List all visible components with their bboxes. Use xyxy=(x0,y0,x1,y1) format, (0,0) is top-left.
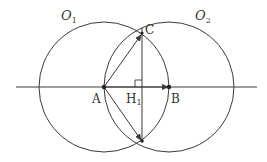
label-o1: O1 xyxy=(61,8,77,25)
point-a xyxy=(102,85,106,89)
label-b: B xyxy=(171,92,180,106)
two-intersecting-circles-diagram: O1 O2 C A H1 B xyxy=(0,0,267,162)
point-c xyxy=(140,31,143,34)
label-h1: H1 xyxy=(126,92,142,107)
right-angle-marker xyxy=(135,80,142,87)
label-a: A xyxy=(91,92,101,106)
point-b xyxy=(167,85,171,89)
label-o2: O2 xyxy=(195,8,211,25)
label-c: C xyxy=(145,23,154,37)
point-d xyxy=(140,139,144,143)
